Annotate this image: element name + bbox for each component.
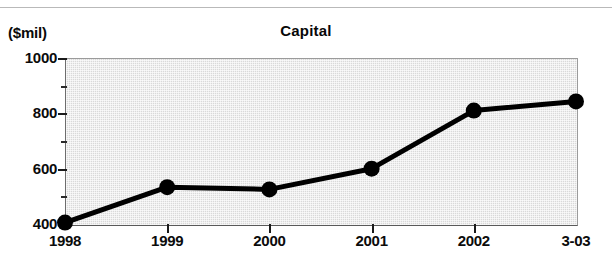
y-axis-tick-major (58, 224, 67, 226)
y-axis-label: 400 (5, 215, 57, 232)
x-axis-label: 2000 (224, 232, 314, 249)
y-axis-tick-minor (61, 86, 67, 88)
plot-area (65, 58, 578, 226)
x-axis-label: 2001 (327, 232, 417, 249)
y-axis-tick-major (58, 58, 67, 60)
y-axis-label: 1000 (5, 49, 57, 66)
y-axis-tick-major (58, 169, 67, 171)
y-axis-tick-minor (61, 141, 67, 143)
chart-title: Capital (0, 22, 612, 39)
x-axis-label: 1999 (122, 232, 212, 249)
capital-line-chart: ($mil) Capital 4006008001000199819992000… (0, 0, 612, 256)
y-axis-label: 600 (5, 160, 57, 177)
y-axis-tick-minor (61, 196, 67, 198)
y-axis-label: 800 (5, 104, 57, 121)
y-axis-tick-major (58, 113, 67, 115)
x-axis-label: 1998 (20, 232, 110, 249)
x-axis-label: 3-03 (531, 232, 612, 249)
x-axis-label: 2002 (429, 232, 519, 249)
